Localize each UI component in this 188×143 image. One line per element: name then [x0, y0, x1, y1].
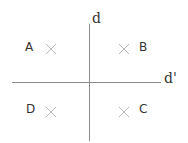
cross-mark-icon — [118, 43, 130, 55]
horizontal-axis-d-prime — [12, 82, 161, 83]
cross-mark-icon — [45, 43, 57, 55]
quadrant-a-label: A — [25, 41, 33, 53]
quadrant-d-label: D — [26, 103, 35, 115]
quadrant-c-label: C — [139, 103, 147, 115]
vertical-axis-label: d — [92, 11, 101, 25]
horizontal-axis-label: d' — [164, 71, 177, 85]
quadrant-diagram: d d' A B D C — [0, 0, 188, 143]
quadrant-b-label: B — [139, 41, 147, 53]
cross-mark-icon — [45, 106, 57, 118]
cross-mark-icon — [118, 106, 130, 118]
